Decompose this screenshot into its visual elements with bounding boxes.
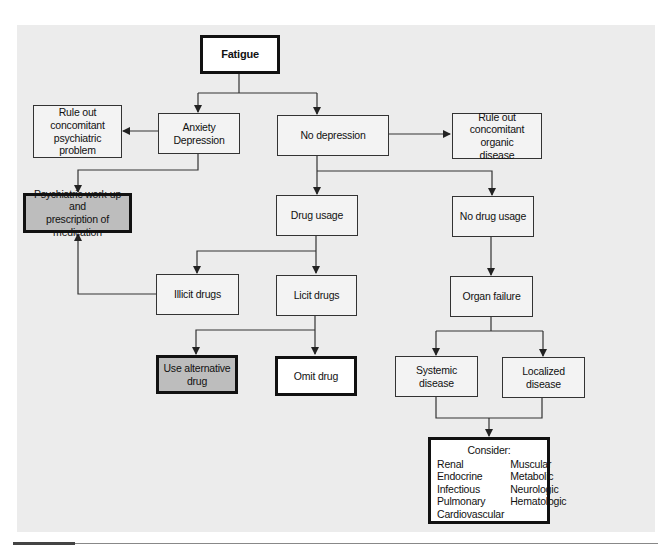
node-rule-out-psychiatric: Rule out concomitant psychiatric problem bbox=[33, 105, 122, 158]
node-omit-drug-label: Omit drug bbox=[294, 370, 338, 383]
node-organ-failure-label: Organ failure bbox=[462, 290, 520, 303]
node-illicit-drugs: Illicit drugs bbox=[156, 274, 239, 315]
node-consider: Consider: Renal Muscular Endocrine Metab… bbox=[428, 437, 550, 524]
consider-list: Renal Muscular Endocrine Metabolic Infec… bbox=[437, 458, 541, 521]
node-anxiety-depression: Anxiety Depression bbox=[158, 113, 240, 154]
consider-item: Renal bbox=[437, 458, 504, 471]
node-omit-drug: Omit drug bbox=[275, 356, 357, 396]
consider-item: Muscular bbox=[510, 458, 566, 471]
node-systemic-disease: Systemic disease bbox=[395, 356, 478, 397]
node-drug-usage: Drug usage bbox=[276, 195, 358, 236]
node-anxiety-depression-label: Anxiety Depression bbox=[173, 121, 224, 146]
node-no-drug-usage-label: No drug usage bbox=[460, 210, 526, 223]
node-fatigue-label: Fatigue bbox=[221, 48, 259, 61]
consider-item: Endocrine bbox=[437, 470, 504, 483]
footer-accent-bar bbox=[13, 542, 75, 545]
node-rule-out-organic: Rule out concomitant organic disease bbox=[452, 113, 542, 159]
consider-item: Pulmonary bbox=[437, 495, 504, 508]
node-localized-disease-label: Localized disease bbox=[507, 365, 580, 390]
node-use-alternative-drug: Use alternative drug bbox=[156, 355, 238, 394]
node-organ-failure: Organ failure bbox=[450, 276, 533, 317]
consider-item: Infectious bbox=[437, 483, 504, 496]
footer-divider bbox=[13, 543, 658, 544]
node-localized-disease: Localized disease bbox=[502, 357, 585, 398]
node-no-depression-label: No depression bbox=[300, 129, 365, 142]
node-rule-out-psychiatric-label: Rule out concomitant psychiatric problem bbox=[38, 106, 117, 156]
node-psychiatric-workup: Psychiatric work-up and prescription of … bbox=[23, 193, 132, 233]
consider-item: Cardiovascular bbox=[437, 508, 504, 521]
node-no-depression: No depression bbox=[277, 115, 389, 156]
node-psychiatric-workup-label: Psychiatric work-up and prescription of … bbox=[30, 188, 125, 238]
node-systemic-disease-label: Systemic disease bbox=[400, 364, 473, 389]
node-use-alternative-drug-label: Use alternative drug bbox=[163, 362, 230, 387]
consider-item: Neurologic bbox=[510, 483, 566, 496]
node-licit-drugs-label: Licit drugs bbox=[294, 289, 340, 302]
consider-item: Metabolic bbox=[510, 470, 566, 483]
consider-title: Consider: bbox=[437, 444, 541, 457]
consider-item: Hematologic bbox=[510, 495, 566, 508]
node-rule-out-organic-label: Rule out concomitant organic disease bbox=[457, 111, 537, 161]
node-illicit-drugs-label: Illicit drugs bbox=[174, 288, 221, 301]
node-no-drug-usage: No drug usage bbox=[452, 196, 534, 237]
node-fatigue: Fatigue bbox=[200, 35, 280, 74]
node-drug-usage-label: Drug usage bbox=[291, 209, 343, 222]
node-licit-drugs: Licit drugs bbox=[276, 275, 357, 316]
